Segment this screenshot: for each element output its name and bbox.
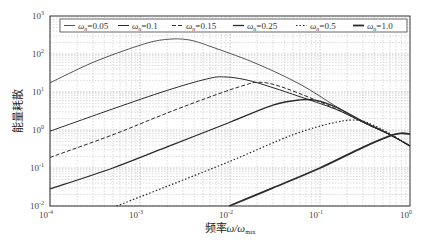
x-tick-label: 10-2 [219, 209, 233, 220]
y-axis-label: 能量耗散 [11, 89, 25, 133]
legend-item-label: ωn=1.0 [367, 21, 393, 32]
x-tick-labels: 10-410-310-210-1100 [39, 209, 412, 220]
legend-item-label: ωn=0.1 [132, 21, 158, 32]
x-tick-label: 100 [400, 209, 412, 220]
y-tick-label: 102 [32, 48, 44, 59]
y-tick-labels: 10310210110010-110-2 [30, 10, 44, 211]
x-axis-label-symbol: ω/ω [227, 222, 246, 234]
x-axis-label: 频率ω/ωmax [205, 221, 256, 235]
x-tick-label: 10-3 [129, 209, 143, 220]
y-tick-label: 100 [32, 124, 44, 135]
x-tick-label: 10-1 [309, 209, 323, 220]
legend-item-label: ωn=0.5 [310, 21, 336, 32]
x-axis-label-subscript: max [245, 229, 255, 235]
legend-item-label: ωn=0.15 [186, 21, 217, 32]
grid [50, 16, 410, 206]
x-tick-label: 10-4 [39, 209, 53, 220]
legend: ωn=0.05ωn=0.1ωn=0.15ωn=0.25ωn=0.5ωn=1.0 [60, 19, 407, 32]
legend-item-label: ωn=0.05 [78, 21, 109, 32]
x-axis-label-main: 频率 [205, 221, 227, 235]
energy-dissipation-chart: ωn=0.05ωn=0.1ωn=0.15ωn=0.25ωn=0.5ωn=1.0 … [0, 0, 428, 247]
y-tick-label: 10-1 [30, 162, 44, 173]
series-curve-4 [117, 120, 410, 206]
y-tick-label: 101 [32, 86, 44, 97]
y-tick-label: 103 [32, 10, 44, 21]
legend-item-label: ωn=0.25 [247, 21, 278, 32]
